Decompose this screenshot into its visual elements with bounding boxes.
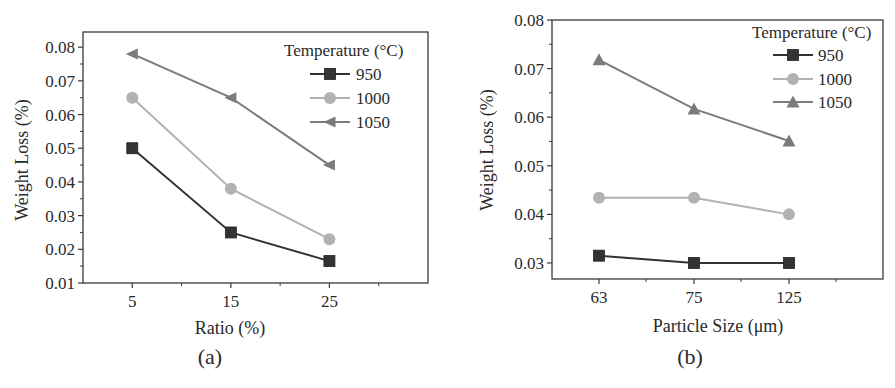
y-tick-label: 0.03	[45, 207, 75, 226]
x-tick-label: 25	[321, 292, 338, 311]
data-point-marker	[783, 208, 795, 220]
series-1050	[593, 53, 796, 146]
data-point-marker	[126, 92, 138, 104]
legend: Temperature (°C)95010001050	[284, 41, 403, 132]
panel-caption: (a)	[198, 344, 222, 369]
data-point-marker	[593, 192, 605, 204]
legend-label: 1000	[818, 70, 852, 89]
data-point-marker	[593, 53, 606, 65]
series-line	[132, 148, 329, 261]
x-tick-label: 125	[776, 288, 802, 307]
data-point-marker	[323, 233, 335, 245]
legend-label: 950	[818, 46, 844, 65]
y-tick-label: 0.02	[45, 240, 75, 259]
figure-canvas: 0.010.020.030.040.050.060.070.0851525Rat…	[0, 0, 895, 388]
x-axis-label: Ratio (%)	[195, 318, 265, 339]
series-1000	[593, 192, 795, 221]
legend-marker	[324, 117, 336, 128]
legend-label: 1050	[818, 93, 852, 112]
x-tick-label: 15	[222, 292, 239, 311]
y-tick-label: 0.05	[45, 139, 75, 158]
y-tick-label: 0.01	[45, 274, 75, 293]
legend-label: 950	[356, 65, 382, 84]
x-tick-label: 75	[686, 288, 703, 307]
series-1000	[126, 92, 335, 246]
figure: 0.010.020.030.040.050.060.070.0851525Rat…	[0, 0, 895, 388]
chart-panel-a: 0.010.020.030.040.050.060.070.0851525Rat…	[12, 32, 428, 369]
legend-marker	[325, 69, 336, 80]
legend-marker	[788, 50, 799, 61]
y-tick-label: 0.07	[514, 60, 544, 79]
x-tick-label: 63	[591, 288, 608, 307]
series-line	[132, 98, 329, 240]
x-tick-label: 5	[128, 292, 137, 311]
legend-title: Temperature (°C)	[752, 23, 871, 42]
y-tick-label: 0.04	[45, 173, 75, 192]
y-tick-label: 0.08	[514, 11, 544, 30]
series-1050	[126, 48, 335, 170]
data-point-marker	[594, 250, 605, 261]
y-tick-label: 0.04	[514, 205, 544, 224]
x-axis-label: Particle Size (μm)	[653, 316, 784, 337]
y-tick-label: 0.07	[45, 72, 75, 91]
data-point-marker	[688, 102, 701, 114]
data-point-marker	[225, 227, 236, 238]
y-tick-label: 0.06	[45, 106, 75, 125]
series-950	[127, 143, 335, 267]
legend: Temperature (°C)95010001050	[752, 23, 871, 112]
legend-label: 1050	[356, 113, 390, 132]
series-line	[132, 54, 329, 165]
data-point-marker	[225, 183, 237, 195]
series-line	[599, 60, 789, 141]
y-tick-label: 0.08	[45, 38, 75, 57]
y-axis-label: Weight Loss (%)	[12, 99, 33, 221]
data-point-marker	[784, 257, 795, 268]
chart-panel-b: 0.030.040.050.060.070.086375125Particle …	[477, 11, 883, 369]
y-tick-label: 0.03	[514, 254, 544, 273]
panel-caption: (b)	[677, 344, 703, 369]
data-point-marker	[126, 48, 138, 59]
legend-title: Temperature (°C)	[284, 41, 403, 60]
y-tick-label: 0.06	[514, 108, 544, 127]
data-point-marker	[689, 257, 700, 268]
data-point-marker	[127, 143, 138, 154]
y-tick-label: 0.05	[514, 157, 544, 176]
legend-marker	[787, 73, 799, 85]
data-point-marker	[224, 92, 236, 103]
data-point-marker	[324, 256, 335, 267]
series-950	[594, 250, 795, 268]
legend-label: 1000	[356, 89, 390, 108]
y-axis-label: Weight Loss (%)	[477, 89, 498, 211]
data-point-marker	[688, 192, 700, 204]
legend-marker	[324, 92, 336, 104]
